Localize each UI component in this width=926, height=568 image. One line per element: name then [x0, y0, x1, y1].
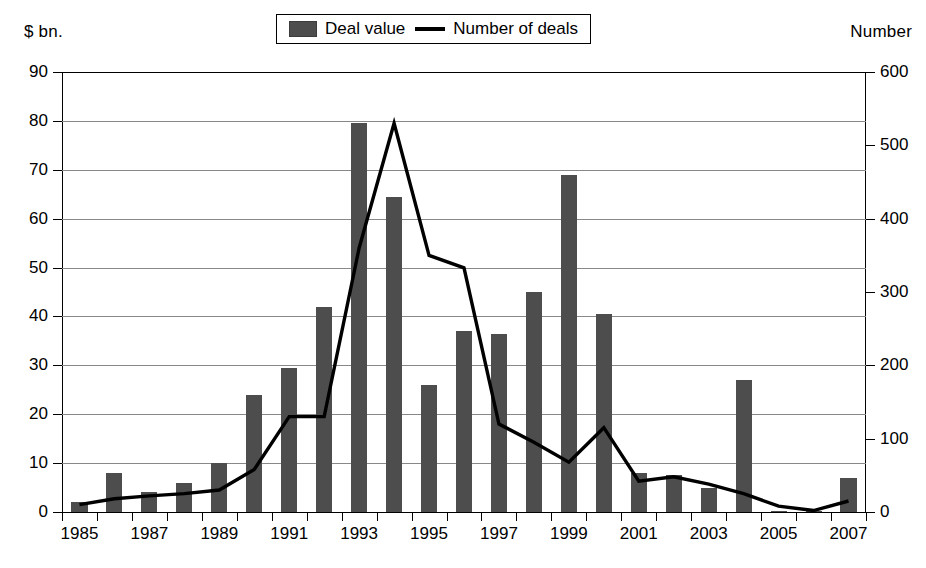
- x-tick: [866, 512, 867, 521]
- left-axis-caption: $ bn.: [24, 22, 63, 42]
- x-tick: [412, 512, 413, 521]
- x-tick: [237, 512, 238, 521]
- x-tick: [167, 512, 168, 521]
- y-tick-label-left: 60: [29, 209, 48, 229]
- gridline: [62, 512, 866, 513]
- y-tick-label-left: 50: [29, 258, 48, 278]
- y-tick-left: [53, 414, 62, 415]
- legend-item-number-of-deals: Number of deals: [415, 19, 578, 39]
- y-tick-right: [866, 219, 875, 220]
- y-tick-label-left: 40: [29, 306, 48, 326]
- y-tick-label-left: 0: [39, 502, 48, 522]
- y-tick-label-right: 100: [880, 429, 908, 449]
- x-tick: [132, 512, 133, 521]
- legend-label-number-of-deals: Number of deals: [453, 19, 578, 39]
- x-tick-label: 1987: [130, 524, 168, 544]
- x-tick: [551, 512, 552, 521]
- x-tick: [726, 512, 727, 521]
- x-tick: [621, 512, 622, 521]
- x-tick: [62, 512, 63, 521]
- x-tick-label: 2003: [690, 524, 728, 544]
- x-tick-label: 1997: [480, 524, 518, 544]
- legend-item-deal-value: Deal value: [289, 19, 405, 39]
- y-tick-label-left: 30: [29, 355, 48, 375]
- y-tick-right: [866, 512, 875, 513]
- legend-line-icon: [415, 27, 445, 31]
- y-tick-left: [53, 72, 62, 73]
- y-tick-label-left: 90: [29, 62, 48, 82]
- legend-label-deal-value: Deal value: [325, 19, 405, 39]
- y-tick-right: [866, 292, 875, 293]
- x-tick-label: 1999: [550, 524, 588, 544]
- x-tick: [481, 512, 482, 521]
- right-axis-caption: Number: [850, 22, 912, 42]
- x-tick: [97, 512, 98, 521]
- x-tick: [761, 512, 762, 521]
- y-tick-label-right: 600: [880, 62, 908, 82]
- x-tick: [586, 512, 587, 521]
- x-tick-label: 2001: [620, 524, 658, 544]
- x-tick-label: 1991: [270, 524, 308, 544]
- x-tick-label: 1993: [340, 524, 378, 544]
- y-tick-left: [53, 268, 62, 269]
- x-tick: [516, 512, 517, 521]
- y-tick-right: [866, 365, 875, 366]
- y-tick-label-left: 80: [29, 111, 48, 131]
- chart-container: $ bn. Number Deal value Number of deals …: [0, 0, 926, 568]
- x-tick-label: 1985: [61, 524, 99, 544]
- y-tick-left: [53, 463, 62, 464]
- y-tick-left: [53, 365, 62, 366]
- y-tick-left: [53, 316, 62, 317]
- x-tick: [691, 512, 692, 521]
- y-tick-left: [53, 121, 62, 122]
- y-tick-left: [53, 512, 62, 513]
- x-tick-label: 1989: [200, 524, 238, 544]
- y-tick-label-right: 0: [880, 502, 889, 522]
- x-tick: [447, 512, 448, 521]
- y-tick-label-right: 300: [880, 282, 908, 302]
- y-tick-left: [53, 170, 62, 171]
- y-tick-right: [866, 145, 875, 146]
- y-tick-right: [866, 72, 875, 73]
- x-tick: [202, 512, 203, 521]
- x-tick: [831, 512, 832, 521]
- x-tick: [272, 512, 273, 521]
- y-tick-label-right: 500: [880, 135, 908, 155]
- y-tick-label-left: 70: [29, 160, 48, 180]
- plot-area: 0102030405060708090 0100200300400500600 …: [62, 72, 866, 512]
- x-tick-label: 1995: [410, 524, 448, 544]
- y-tick-label-right: 400: [880, 209, 908, 229]
- x-tick-label: 2007: [830, 524, 868, 544]
- chart-legend: Deal value Number of deals: [276, 14, 591, 44]
- y-tick-right: [866, 439, 875, 440]
- y-tick-left: [53, 219, 62, 220]
- y-tick-label-right: 200: [880, 355, 908, 375]
- x-tick: [342, 512, 343, 521]
- x-tick: [377, 512, 378, 521]
- y-tick-label-left: 10: [29, 453, 48, 473]
- x-tick: [796, 512, 797, 521]
- line-series-number-of-deals: [62, 72, 866, 512]
- x-tick-label: 2005: [760, 524, 798, 544]
- y-tick-label-left: 20: [29, 404, 48, 424]
- x-tick: [307, 512, 308, 521]
- x-tick: [656, 512, 657, 521]
- legend-swatch-icon: [289, 21, 317, 37]
